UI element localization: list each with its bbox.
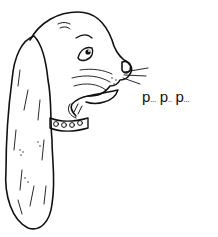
dog-ear — [6, 36, 54, 229]
speech-p1: p — [142, 88, 150, 105]
dog-mouth — [86, 90, 118, 104]
dog-illustration — [0, 0, 218, 237]
speech-p3: p — [172, 88, 184, 105]
speech-text: p... p.. p... — [142, 88, 189, 105]
speech-dots3: ... — [184, 95, 190, 104]
speech-p2: p — [156, 88, 168, 105]
dog-eye — [78, 47, 93, 60]
